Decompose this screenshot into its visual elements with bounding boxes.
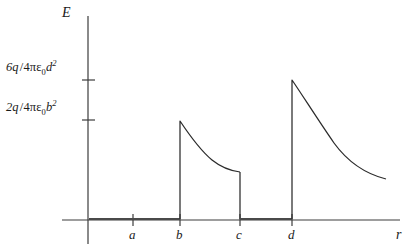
y-tick-label-6q: 6q /4πε0d2	[6, 61, 57, 74]
y-tick-6q-exponent: 2	[52, 58, 56, 68]
y-tick-6q-denominator: 4πε	[23, 60, 41, 74]
y-tick-2q-exponent: 2	[52, 98, 56, 108]
curve-inverse-square-beyond-d	[292, 80, 386, 219]
x-tick-label-c: c	[236, 228, 242, 241]
electric-field-plot	[0, 0, 413, 249]
y-tick-label-2q: 2q /4πε0b2	[6, 101, 57, 114]
x-tick-label-d: d	[288, 228, 295, 241]
curve-inverse-square-b-to-c	[180, 121, 240, 219]
x-tick-label-b: b	[176, 228, 183, 241]
x-axis-label: r	[396, 228, 401, 242]
figure-container: E r a b c d 6q /4πε0d2 2q /4πε0b2	[0, 0, 413, 249]
x-tick-label-a: a	[129, 228, 136, 241]
y-axis-label: E	[62, 6, 71, 20]
y-tick-2q-denominator: 4πε	[23, 100, 41, 114]
